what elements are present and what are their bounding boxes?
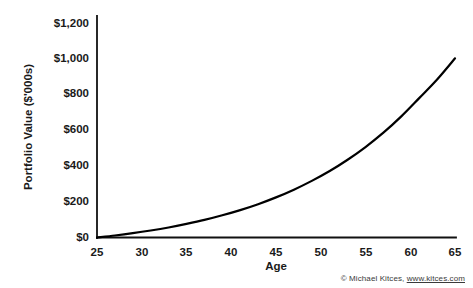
portfolio-value-curve: [97, 58, 455, 237]
y-tick-label-200: $200: [63, 195, 89, 207]
x-tick-label-30: 30: [136, 246, 149, 258]
y-tick-label-800: $800: [63, 87, 89, 99]
y-tick-label-1000: $1,000: [54, 52, 89, 64]
y-axis-group: $1,200 $1,000 $800 $600 $400 $200 $0 Por…: [22, 16, 97, 243]
y-tick-label-1200: $1,200: [54, 17, 89, 29]
x-tick-label-40: 40: [225, 246, 238, 258]
portfolio-growth-chart: $1,200 $1,000 $800 $600 $400 $200 $0 Por…: [0, 0, 473, 288]
y-axis-title: Portfolio Value ($'000s): [22, 64, 34, 190]
x-tick-label-60: 60: [405, 246, 418, 258]
x-tick-label-50: 50: [315, 246, 328, 258]
y-tick-label-400: $400: [63, 159, 89, 171]
x-tick-label-35: 35: [180, 246, 193, 258]
y-tick-label-600: $600: [63, 123, 89, 135]
x-tick-label-25: 25: [91, 246, 104, 258]
x-axis-group: 25 30 35 40 45 50 55 60 65 Age: [91, 238, 462, 273]
x-tick-label-45: 45: [270, 246, 283, 258]
x-tick-label-55: 55: [360, 246, 373, 258]
attribution: © Michael Kitces, www.kitces.com: [341, 274, 465, 283]
attribution-copyright: © Michael Kitces,: [341, 274, 405, 283]
x-tick-label-65: 65: [449, 246, 462, 258]
chart-container: $1,200 $1,000 $800 $600 $400 $200 $0 Por…: [0, 0, 473, 288]
x-axis-title: Age: [265, 260, 287, 272]
y-tick-label-0: $0: [76, 231, 89, 243]
attribution-url[interactable]: www.kitces.com: [407, 274, 465, 283]
